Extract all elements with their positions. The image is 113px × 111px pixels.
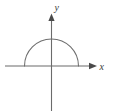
- y-axis-arrow-icon: [48, 14, 54, 22]
- figure-container: x y: [0, 0, 113, 111]
- x-axis-arrow-icon: [89, 63, 97, 69]
- coordinate-plot: x y: [0, 0, 113, 111]
- x-axis-label: x: [99, 61, 105, 72]
- y-axis-label: y: [54, 2, 60, 13]
